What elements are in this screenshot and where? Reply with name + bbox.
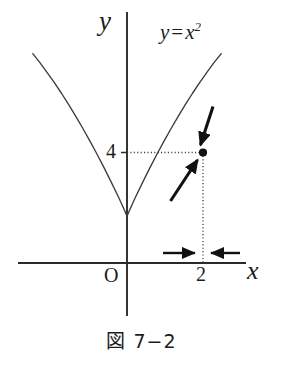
approach-arrow-from-below: [171, 160, 198, 201]
curve-equation-label: y=x2: [160, 20, 201, 43]
y-axis-label: y: [99, 8, 111, 35]
equation-equals-sign: =: [169, 20, 185, 44]
parabola-plot: [0, 0, 283, 365]
y-tick-label-4: 4: [106, 141, 116, 161]
origin-label: O: [104, 265, 118, 285]
point-marker-2-4: [199, 148, 207, 156]
x-axis-label: x: [247, 258, 259, 284]
equation-exponent: 2: [195, 19, 202, 34]
equation-base: x: [185, 20, 194, 44]
figure-container: y x O 2 4 y=x2 図 7−2: [0, 0, 283, 365]
equation-lhs: y: [160, 20, 169, 44]
x-tick-label-2: 2: [196, 264, 206, 284]
approach-arrow-from-above: [201, 107, 214, 146]
figure-caption: 図 7−2: [0, 326, 283, 353]
